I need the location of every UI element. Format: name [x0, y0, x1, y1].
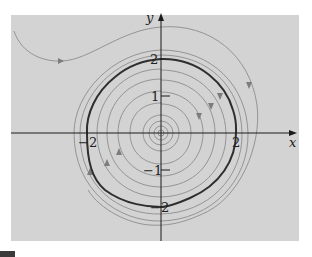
- tick-label-x-neg2: −2: [78, 135, 97, 150]
- tick-label-x-2: 2: [232, 135, 240, 150]
- tick-label-y-neg2: −2: [150, 200, 169, 215]
- tick-label-y-2: 2: [150, 52, 158, 67]
- phase-portrait: y x −2 2 2 1 −1 −2: [0, 0, 312, 257]
- x-axis-label: x: [289, 135, 297, 150]
- tick-label-y-neg1: −1: [143, 163, 162, 178]
- tick-label-y-1: 1: [151, 89, 159, 104]
- y-axis-label: y: [145, 10, 154, 25]
- corner-mark: [0, 251, 15, 257]
